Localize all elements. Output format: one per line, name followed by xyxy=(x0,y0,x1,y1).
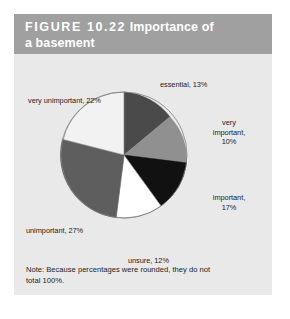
figure-title-band: FIGURE 10.22 Importance of a basement xyxy=(14,14,272,54)
figure-panel: FIGURE 10.22 Importance of a basement es… xyxy=(14,14,272,295)
pie-label-unimportant: unimportant, 27% xyxy=(26,226,83,236)
figure-note: Note: Because percentages were rounded, … xyxy=(26,264,262,286)
pie-label-very-important: very important, 10% xyxy=(204,118,254,147)
pie-label-essential: essential, 13% xyxy=(160,80,207,90)
pie-label-very-unimportant: very unimportant, 22% xyxy=(28,96,101,106)
pie-label-important: important, 17% xyxy=(204,193,254,212)
pie-chart: essential, 13% very unimportant, 22% ver… xyxy=(14,54,272,259)
figure-number: FIGURE 10.22 xyxy=(25,20,126,34)
figure-title: FIGURE 10.22 Importance of a basement xyxy=(25,19,272,51)
pie-chart-svg xyxy=(59,90,189,220)
